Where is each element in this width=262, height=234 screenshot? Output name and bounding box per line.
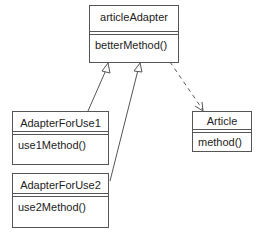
class-method: use2Method() — [13, 197, 108, 213]
class-AdapterForUse1[interactable]: AdapterForUse1 use1Method() — [12, 111, 109, 165]
class-name: AdapterForUse1 — [13, 112, 108, 132]
class-articleAdapter[interactable]: articleAdapter betterMethod() — [89, 5, 179, 63]
class-Article[interactable]: Article method() — [192, 111, 252, 152]
class-method: betterMethod() — [90, 35, 178, 51]
class-name: AdapterForUse2 — [13, 174, 108, 194]
generalization-arrow-use1 — [88, 63, 110, 111]
class-name: articleAdapter — [90, 6, 178, 32]
generalization-arrow-use2 — [110, 63, 142, 181]
class-name: Article — [193, 112, 251, 130]
class-AdapterForUse2[interactable]: AdapterForUse2 use2Method() — [12, 173, 109, 228]
class-method: method() — [193, 133, 251, 148]
dependency-arrow-article — [170, 62, 203, 111]
class-method: use1Method() — [13, 135, 108, 151]
